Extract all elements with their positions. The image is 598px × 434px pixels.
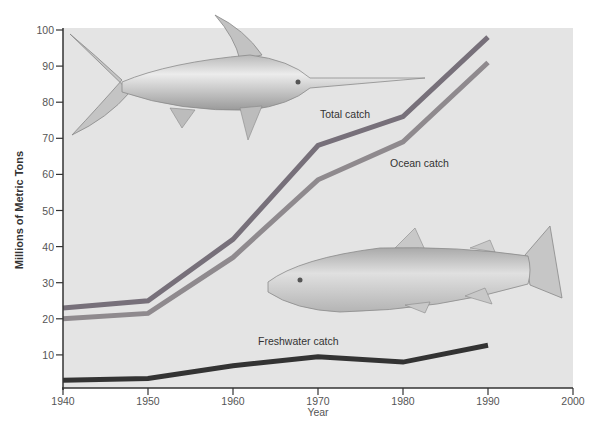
x-tick-label: 1950 bbox=[136, 395, 160, 407]
x-tick-label: 2000 bbox=[561, 395, 585, 407]
y-tick-label: 50 bbox=[42, 205, 54, 217]
x-axis-title: Year bbox=[307, 406, 329, 418]
y-tick-label: 100 bbox=[36, 24, 54, 36]
total-catch-label: Total catch bbox=[320, 108, 370, 120]
y-tick-label: 60 bbox=[42, 168, 54, 180]
y-axis-ticks: 102030405060708090100 bbox=[36, 24, 63, 361]
ocean-catch-label: Ocean catch bbox=[390, 157, 449, 169]
freshwater-catch-label: Freshwater catch bbox=[258, 335, 339, 347]
x-tick-label: 1990 bbox=[476, 395, 500, 407]
y-tick-label: 10 bbox=[42, 349, 54, 361]
x-tick-label: 1960 bbox=[221, 395, 245, 407]
swordfish-eye bbox=[296, 80, 301, 85]
y-tick-label: 30 bbox=[42, 277, 54, 289]
y-axis-title: Millions of Metric Tons bbox=[13, 151, 25, 269]
trout-eye bbox=[298, 278, 303, 283]
x-axis-ticks: 1940195019601970198019902000 bbox=[51, 388, 585, 407]
x-tick-label: 1940 bbox=[51, 395, 75, 407]
y-tick-label: 90 bbox=[42, 60, 54, 72]
x-tick-label: 1980 bbox=[391, 395, 415, 407]
y-tick-label: 80 bbox=[42, 96, 54, 108]
chart: 102030405060708090100 194019501960197019… bbox=[0, 0, 598, 434]
y-tick-label: 70 bbox=[42, 132, 54, 144]
y-tick-label: 20 bbox=[42, 313, 54, 325]
y-tick-label: 40 bbox=[42, 241, 54, 253]
